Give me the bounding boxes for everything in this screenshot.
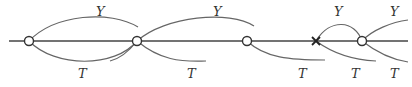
arc-y-3: [316, 24, 362, 41]
label-y-4: Y: [390, 4, 400, 19]
label-t-5: T: [390, 66, 400, 81]
label-y-2: Y: [213, 4, 223, 19]
arc-y-4: [362, 20, 408, 41]
label-t-2: T: [187, 66, 197, 81]
node-circle-2: [133, 37, 142, 46]
node-circle-4: [358, 37, 367, 46]
label-y-3: Y: [334, 4, 344, 19]
arc-t-1: [29, 41, 137, 61]
arc-t-5: [362, 41, 408, 62]
arc-t-2: [137, 41, 206, 61]
arc-y-2: [137, 17, 254, 41]
label-y-1: Y: [96, 4, 106, 19]
label-t-3: T: [298, 66, 308, 81]
arc-y-1: [29, 17, 138, 41]
node-circle-3: [243, 37, 252, 46]
label-t-4: T: [351, 66, 361, 81]
node-circle-1: [25, 37, 34, 46]
label-t-1: T: [78, 66, 88, 81]
diagram: Y T Y T Y T Y T T: [0, 0, 412, 87]
